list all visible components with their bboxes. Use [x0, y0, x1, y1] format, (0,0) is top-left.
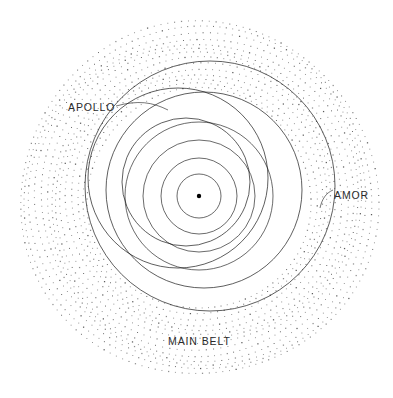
belt-dot	[358, 226, 359, 227]
belt-dot	[69, 248, 70, 249]
belt-dot	[132, 41, 133, 42]
belt-dot	[84, 131, 85, 132]
belt-dot	[255, 364, 256, 365]
belt-dot	[248, 340, 249, 341]
belt-dot	[315, 178, 316, 179]
belt-dot	[281, 319, 282, 320]
belt-dot	[212, 45, 213, 46]
belt-dot	[329, 87, 330, 88]
belt-dot	[115, 70, 116, 71]
belt-dot	[202, 20, 203, 21]
belt-dot	[302, 324, 303, 325]
belt-dot	[323, 111, 324, 112]
belt-dot	[318, 298, 319, 299]
belt-dot	[195, 373, 196, 374]
belt-dot	[89, 316, 90, 317]
belt-dot	[262, 108, 263, 109]
belt-dot	[194, 361, 195, 362]
belt-dot	[163, 340, 164, 341]
belt-dot	[350, 118, 351, 119]
belt-dot	[80, 306, 81, 307]
belt-dot	[176, 80, 177, 81]
belt-dot	[309, 307, 310, 308]
belt-dot	[217, 318, 218, 319]
belt-dot	[302, 338, 303, 339]
belt-dot	[67, 291, 68, 292]
belt-dot	[102, 294, 103, 295]
belt-dot	[371, 189, 372, 190]
belt-dot	[115, 313, 116, 314]
belt-dot	[248, 354, 249, 355]
belt-dot	[92, 342, 93, 343]
belt-dot	[265, 69, 266, 70]
belt-dot	[244, 69, 245, 70]
belt-dot	[102, 286, 103, 287]
belt-dot	[105, 306, 106, 307]
belt-dot	[340, 216, 341, 217]
belt-dot	[74, 220, 75, 221]
belt-dot	[342, 142, 343, 143]
belt-dot	[359, 124, 360, 125]
belt-dot	[88, 119, 89, 120]
belt-dot	[166, 55, 167, 56]
belt-dot	[300, 257, 301, 258]
belt-dot	[159, 38, 160, 39]
belt-dot	[344, 149, 345, 150]
belt-dot	[156, 351, 157, 352]
belt-dot	[363, 257, 364, 258]
belt-dot	[66, 300, 67, 301]
belt-dot	[76, 329, 77, 330]
belt-dot	[180, 324, 181, 325]
belt-dot	[271, 73, 272, 74]
belt-dot	[86, 338, 87, 339]
belt-dot	[303, 57, 304, 58]
belt-dot	[262, 362, 263, 363]
belt-dot	[68, 222, 69, 223]
belt-dot	[52, 110, 53, 111]
belt-dot	[29, 161, 30, 162]
belt-dot	[42, 126, 43, 127]
belt-dot	[280, 46, 281, 47]
belt-dot	[237, 49, 238, 50]
belt-dot	[318, 291, 319, 292]
belt-dot	[206, 325, 207, 326]
belt-dot	[273, 287, 274, 288]
belt-dot	[71, 201, 72, 202]
belt-dot	[238, 312, 239, 313]
belt-dot	[121, 316, 122, 317]
belt-dot	[286, 348, 287, 349]
belt-dot	[97, 76, 98, 77]
belt-dot	[365, 208, 366, 209]
belt-dot	[217, 57, 218, 58]
belt-dot	[302, 114, 303, 115]
belt-dot	[166, 36, 167, 37]
belt-dot	[225, 33, 226, 34]
belt-dot	[210, 319, 211, 320]
belt-dot	[308, 115, 309, 116]
belt-dot	[80, 130, 81, 131]
belt-dot	[365, 187, 366, 188]
belt-dot	[92, 81, 93, 82]
belt-dot	[216, 372, 217, 373]
belt-dot	[191, 79, 192, 80]
belt-dot	[349, 144, 350, 145]
belt-dot	[210, 32, 211, 33]
belt-dot	[86, 265, 87, 266]
belt-dot	[57, 254, 58, 255]
belt-dot	[303, 306, 304, 307]
belt-dot	[24, 169, 25, 170]
belt-dot	[262, 334, 263, 335]
belt-dot	[232, 35, 233, 36]
belt-dot	[138, 319, 139, 320]
belt-dot	[41, 181, 42, 182]
belt-dot	[337, 110, 338, 111]
belt-dot	[233, 326, 234, 327]
belt-dot	[224, 86, 225, 87]
belt-dot	[292, 81, 293, 82]
belt-dot	[72, 254, 73, 255]
belt-dot	[55, 248, 56, 249]
belt-dot	[143, 302, 144, 303]
belt-dot	[352, 292, 353, 293]
belt-dot	[189, 307, 190, 308]
belt-dot	[227, 51, 228, 52]
